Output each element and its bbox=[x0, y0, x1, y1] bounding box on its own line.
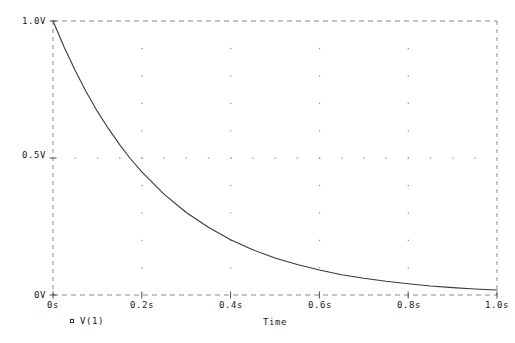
x-tick-label-0s: 0s bbox=[36, 300, 70, 310]
grid-dot bbox=[230, 103, 231, 104]
grid-dot bbox=[230, 75, 231, 76]
grid-dot bbox=[141, 267, 142, 268]
x-tick-label-0p2s: 0.2s bbox=[122, 300, 162, 310]
grid-dot bbox=[141, 103, 142, 104]
y-tick-label-0p5v: 0.5V bbox=[2, 150, 46, 160]
x-tick-label-0p8s: 0.8s bbox=[389, 300, 429, 310]
y-tick-label-1v: 1.0V bbox=[2, 16, 46, 26]
grid-dot bbox=[208, 158, 209, 159]
transient-analysis-plot: 1.0V 0.5V 0V 0s 0.2s 0.4s 0.6s 0.8s 1.0s… bbox=[0, 0, 515, 343]
grid-dot bbox=[141, 158, 142, 159]
grid-dot bbox=[319, 212, 320, 213]
grid-dot bbox=[452, 158, 453, 159]
grid-dot bbox=[141, 48, 142, 49]
signal-trace-v1 bbox=[53, 21, 497, 290]
grid-dot bbox=[408, 103, 409, 104]
x-tick-label-1p0s: 1.0s bbox=[477, 300, 515, 310]
grid-dot bbox=[408, 185, 409, 186]
x-tick-label-0p4s: 0.4s bbox=[211, 300, 251, 310]
grid-dot bbox=[408, 130, 409, 131]
grid-dot bbox=[230, 158, 231, 159]
grid-dot bbox=[363, 158, 364, 159]
grid-dot bbox=[319, 103, 320, 104]
grid-dot bbox=[474, 158, 475, 159]
grid-dot bbox=[75, 158, 76, 159]
grid-dot bbox=[186, 158, 187, 159]
grid-dot bbox=[141, 130, 142, 131]
grid-dot bbox=[319, 75, 320, 76]
grid-dot bbox=[141, 212, 142, 213]
x-axis-title: Time bbox=[245, 317, 305, 327]
grid-dot bbox=[275, 158, 276, 159]
grid-dot bbox=[319, 48, 320, 49]
grid-dot bbox=[230, 130, 231, 131]
plot-canvas bbox=[0, 0, 515, 343]
grid-dot bbox=[408, 212, 409, 213]
grid-dot bbox=[319, 267, 320, 268]
y-tick-label-0v: 0V bbox=[2, 290, 46, 300]
grid-dot bbox=[386, 158, 387, 159]
grid-dot bbox=[319, 130, 320, 131]
grid-dot bbox=[164, 158, 165, 159]
grid-dot bbox=[97, 158, 98, 159]
grid-dot bbox=[408, 158, 409, 159]
grid-dot bbox=[230, 48, 231, 49]
x-tick-label-0p6s: 0.6s bbox=[300, 300, 340, 310]
legend-label-v1: V(1) bbox=[80, 316, 104, 326]
grid-dot bbox=[141, 185, 142, 186]
grid-dot bbox=[230, 185, 231, 186]
grid-dot bbox=[319, 185, 320, 186]
grid-dot bbox=[341, 158, 342, 159]
grid-dot bbox=[230, 267, 231, 268]
grid-dot bbox=[408, 240, 409, 241]
grid-dot bbox=[297, 158, 298, 159]
grid-dot bbox=[252, 158, 253, 159]
legend: V(1) bbox=[70, 316, 104, 326]
grid-dot bbox=[430, 158, 431, 159]
legend-open-square-icon bbox=[70, 319, 74, 323]
grid-dots bbox=[75, 48, 476, 269]
grid-dot bbox=[141, 240, 142, 241]
grid-dot bbox=[319, 240, 320, 241]
grid-dot bbox=[408, 75, 409, 76]
grid-dot bbox=[119, 158, 120, 159]
grid-dot bbox=[230, 212, 231, 213]
grid-dot bbox=[408, 267, 409, 268]
grid-dot bbox=[141, 75, 142, 76]
grid-dot bbox=[408, 48, 409, 49]
grid-dot bbox=[319, 158, 320, 159]
